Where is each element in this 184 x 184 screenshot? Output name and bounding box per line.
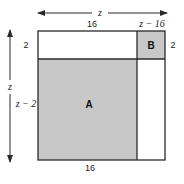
left-top-segment-label: 2 bbox=[23, 40, 28, 50]
left-bottom-segment-label: z − 2 bbox=[15, 98, 37, 109]
top-right-segment-label: z − 16 bbox=[138, 18, 165, 29]
top-dimension-arrow: z bbox=[38, 7, 167, 18]
region-a-label: A bbox=[85, 99, 92, 110]
top-left-segment-label: 16 bbox=[87, 19, 97, 29]
left-dimension-label: z bbox=[7, 81, 12, 92]
region-b-label: B bbox=[147, 40, 154, 51]
top-dimension-label: z bbox=[97, 7, 102, 18]
right-side-label: 2 bbox=[170, 40, 175, 50]
square-partition-diagram: z z A B 16 z − 16 2 z − 2 2 16 bbox=[0, 0, 184, 184]
bottom-side-label: 16 bbox=[85, 163, 95, 173]
left-dimension-arrow: z bbox=[7, 30, 12, 162]
